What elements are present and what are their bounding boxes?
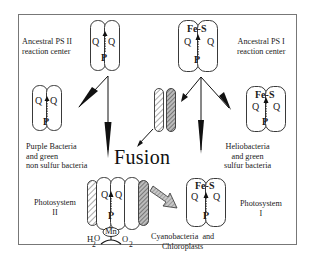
- antenna-subunits: [155, 89, 176, 132]
- helio-q-right: Q: [273, 102, 280, 112]
- fusion-title: Fusion: [114, 146, 170, 168]
- ps1-ancestral-q-right: Q: [207, 37, 214, 47]
- heliobacteria-label-line3: sulfur bacteria: [224, 161, 271, 171]
- ancestral-ps1-label-line1: Ancestral PS I: [237, 37, 285, 47]
- ps2-ancestral-p: P: [101, 53, 107, 63]
- ancestral-ps2-label-line2: reaction center: [22, 47, 72, 57]
- photosystem2-label: Photosystem II: [34, 198, 76, 217]
- ps2-q-right: Q: [115, 190, 122, 200]
- photosystem-evolution-diagram: Q Q P Fe-S Q Q P Q Q P Fe-S Q Q P Q Q P …: [0, 0, 313, 263]
- helio-p: P: [262, 117, 268, 127]
- helio-q-left: Q: [252, 102, 259, 112]
- purple-bacteria-label-line3: non sulfur bacteria: [26, 161, 87, 171]
- purple-q-right: Q: [50, 96, 57, 106]
- ps1-q-left: Q: [191, 192, 198, 202]
- purple-p: P: [43, 117, 49, 127]
- ancestral-ps2-label: Ancestral PS II reaction center: [22, 37, 72, 56]
- heliobacteria-label: Heliobacteria and green sulfur bacteria: [224, 142, 271, 171]
- ancestral-ps2-label-line1: Ancestral PS II: [22, 37, 72, 47]
- photosystem1-label: Photosystem I: [240, 199, 282, 218]
- ps2-ancestral-q-right: Q: [108, 37, 115, 47]
- ps2-oxygen-o: O: [122, 235, 128, 245]
- ancestral-ps1-label: Ancestral PS I reaction center: [237, 37, 285, 56]
- ps2-oxygen-sub: 2: [129, 240, 133, 250]
- ps1-ancestral-p: P: [194, 55, 200, 65]
- cyanobacteria-label-line1: Cyanobacteria and: [151, 232, 214, 242]
- ps2-p: P: [108, 211, 114, 221]
- cyanobacteria-label-line2: Chloroplasts: [151, 242, 214, 252]
- purple-bacteria-label: Purple Bacteria and green non sulfur bac…: [26, 142, 87, 171]
- purple-bacteria-label-line1: Purple Bacteria: [26, 142, 87, 152]
- cyanobacteria-label: Cyanobacteria and Chloroplasts: [151, 232, 214, 251]
- heliobacteria-label-line1: Heliobacteria: [224, 142, 271, 152]
- ps1-q-right: Q: [213, 192, 220, 202]
- photosystem2-label-line2: II: [34, 208, 76, 218]
- ps1-ancestral-fes: Fe-S: [187, 24, 206, 34]
- purple-q-left: Q: [35, 96, 42, 106]
- photosystem1-label-line2: I: [240, 209, 282, 219]
- ps2-water-o: O: [94, 234, 100, 244]
- photosystem2-label-line1: Photosystem: [34, 198, 76, 208]
- ps1-p: P: [203, 211, 209, 221]
- ps2-ancestral-q-left: Q: [92, 37, 99, 47]
- ps2-q-left: Q: [101, 190, 108, 200]
- ancestral-ps1-label-line2: reaction center: [237, 47, 285, 57]
- ps2-mn-cluster: Mn: [105, 227, 117, 237]
- ps1-fes: Fe-S: [195, 181, 214, 191]
- heliobacteria-label-line2: and green: [224, 152, 271, 162]
- purple-bacteria-label-line2: and green: [26, 152, 87, 162]
- helio-fes: Fe-S: [255, 90, 274, 100]
- photosystem1-label-line1: Photosystem: [240, 199, 282, 209]
- transfer-arrow: [150, 186, 177, 208]
- ps1-ancestral-q-left: Q: [184, 37, 191, 47]
